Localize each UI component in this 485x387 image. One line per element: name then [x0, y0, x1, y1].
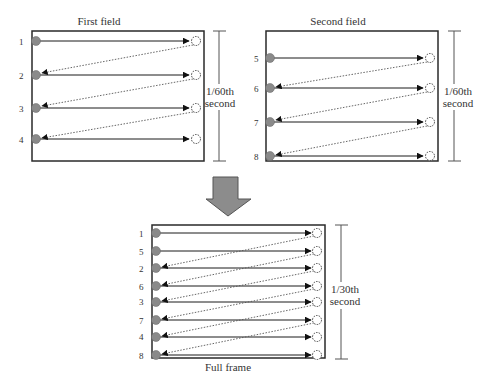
line-label-5: 5 — [139, 247, 144, 257]
line-label-7: 7 — [254, 118, 259, 128]
end-dots — [426, 54, 435, 161]
second-field-panel: Second field 5 6 7 8 — [254, 15, 474, 162]
start-dots — [32, 37, 41, 144]
duration-label: 1/30th — [331, 283, 360, 295]
end-dots — [313, 229, 322, 360]
full-frame-title: Full frame — [205, 361, 251, 373]
second-field-title: Second field — [310, 15, 366, 27]
line-label-4: 4 — [139, 332, 144, 342]
scan-lines — [37, 41, 189, 139]
duration-label: 1/60th — [444, 85, 473, 97]
line-label-1: 1 — [19, 37, 24, 47]
duration-label-unit: second — [330, 295, 361, 307]
line-label-1: 1 — [139, 229, 144, 239]
line-label-4: 4 — [19, 135, 24, 145]
retrace-lines — [42, 45, 193, 138]
line-label-2: 2 — [139, 264, 144, 274]
first-field-title: First field — [77, 15, 121, 27]
line-label-5: 5 — [254, 54, 259, 64]
start-dots — [152, 229, 161, 360]
retrace-lines — [276, 62, 427, 155]
line-label-8: 8 — [139, 351, 144, 361]
down-arrow-icon — [206, 177, 251, 216]
scan-lines — [157, 233, 311, 355]
second-field-frame — [266, 31, 438, 161]
first-field-frame — [32, 31, 204, 161]
first-field-panel: First field 1 2 3 4 — [19, 15, 236, 161]
line-label-3: 3 — [139, 297, 144, 307]
retrace-lines — [162, 236, 314, 354]
duration-label: 1/60th — [206, 85, 235, 97]
interlaced-scan-diagram: First field 1 2 3 4 — [0, 0, 485, 387]
line-label-2: 2 — [19, 71, 24, 81]
start-dots — [266, 54, 275, 161]
end-dots — [192, 37, 201, 144]
line-label-6: 6 — [139, 282, 144, 292]
line-label-6: 6 — [254, 84, 259, 94]
line-label-8: 8 — [254, 152, 259, 162]
line-label-3: 3 — [19, 104, 24, 114]
duration-label-unit: second — [443, 97, 474, 109]
duration-label-unit: second — [205, 97, 236, 109]
full-frame-panel: 1 5 2 6 3 7 4 8 — [139, 225, 361, 373]
line-label-7: 7 — [139, 316, 144, 326]
